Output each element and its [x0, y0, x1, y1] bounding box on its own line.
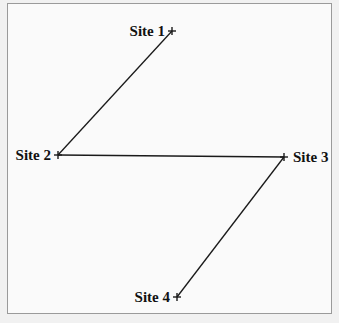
edge-s1-s2	[58, 31, 172, 155]
node-s3: Site 3	[280, 149, 328, 165]
node-label: Site 3	[293, 149, 328, 165]
node-label: Site 4	[135, 289, 171, 305]
node-label: Site 1	[130, 23, 165, 39]
node-s2: Site 2	[16, 147, 62, 163]
edge-s3-s4	[177, 157, 284, 297]
node-label: Site 2	[16, 147, 51, 163]
node-s1: Site 1	[130, 23, 176, 39]
node-s4: Site 4	[135, 289, 181, 305]
site-network-diagram: Site 1Site 2Site 3Site 4	[0, 0, 339, 323]
edge-s2-s3	[58, 155, 284, 157]
